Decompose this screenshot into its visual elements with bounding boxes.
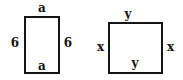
rectangle-left-left-side-label: 6 (8, 37, 22, 49)
rectangle-left-top-side-label: a (34, 2, 50, 14)
rectangle-left-bottom-side-label: a (34, 60, 50, 72)
rectangle-right-right-side-label: x (164, 41, 177, 53)
rectangle-right-top-side-label: y (120, 8, 136, 20)
rectangle-right-bottom-side-label: y (127, 57, 143, 69)
geometry-figure-canvas: a a 6 6 y y x x (0, 0, 183, 80)
rectangle-right-left-side-label: x (94, 41, 107, 53)
rectangle-left-right-side-label: 6 (61, 37, 75, 49)
